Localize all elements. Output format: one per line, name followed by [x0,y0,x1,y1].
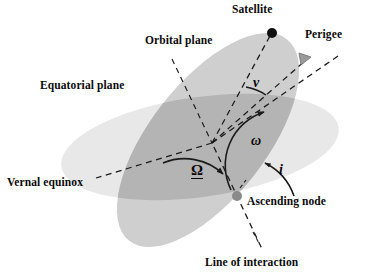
label-perigee: Perigee [305,29,342,41]
label-satellite: Satellite [232,4,273,16]
symbol-true-anomaly: ν [253,76,259,90]
label-vernal-equinox: Vernal equinox [7,177,83,189]
label-equatorial-plane: Equatorial plane [40,80,124,92]
symbol-raan: Ω [191,163,203,179]
label-ascending-node: Ascending node [247,196,326,208]
symbol-argument-of-perigee: ω [251,134,261,148]
label-orbital-plane: Orbital plane [145,35,212,47]
label-line-of-intersection: Line of interaction [205,257,298,269]
symbol-inclination: i [279,163,283,177]
satellite-marker [267,28,277,38]
ascending-node-marker [232,191,242,201]
orbital-elements-diagram: Satellite Perigee Orbital plane Equatori… [0,0,367,279]
